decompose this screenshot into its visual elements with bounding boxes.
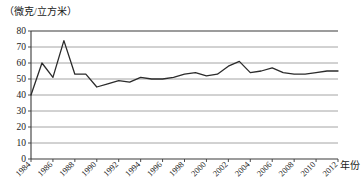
y-tick-label: 10 [17,138,27,148]
x-tick-label: 2002 [211,159,230,178]
y-tick-label: 20 [17,122,27,132]
x-tick-label: 1984 [13,159,33,179]
x-tick-label: 1992 [101,159,120,178]
chart-container: （微克/立方米） 80706050403020100 1984198619881… [0,0,362,196]
line-chart-svg: 80706050403020100 1984198619881990199219… [0,0,362,196]
y-tick-label: 30 [17,106,27,116]
x-tick-label: 2010 [298,159,317,178]
y-tick-label: 70 [17,42,27,52]
x-tick-label: 2006 [255,159,274,178]
gridlines-group [31,47,338,143]
x-tick-label: 1990 [79,159,98,178]
y-tick-label: 80 [17,26,27,36]
x-tick-label: 1996 [145,159,164,178]
x-tick-label: 1988 [57,159,76,178]
x-tick-label: 1998 [167,159,186,178]
x-tick-label: 1986 [35,159,54,178]
data-series-line [31,41,338,95]
y-tick-label: 60 [17,58,27,68]
x-tick-label: 2012 [320,159,339,178]
x-tick-label: 2004 [233,159,253,179]
x-tick-label: 1994 [123,159,143,179]
x-axis-title: 年份 [340,159,360,171]
y-axis-ticks-group: 80706050403020100 [17,26,32,164]
plot-area-wrapper: 80706050403020100 1984198619881990199219… [0,0,362,196]
y-tick-label: 40 [17,90,27,100]
y-tick-label: 50 [17,74,27,84]
x-tick-label: 2000 [189,159,208,178]
x-axis-ticks-group: 1984198619881990199219941996199820002002… [13,159,339,179]
x-tick-label: 2008 [276,159,295,178]
